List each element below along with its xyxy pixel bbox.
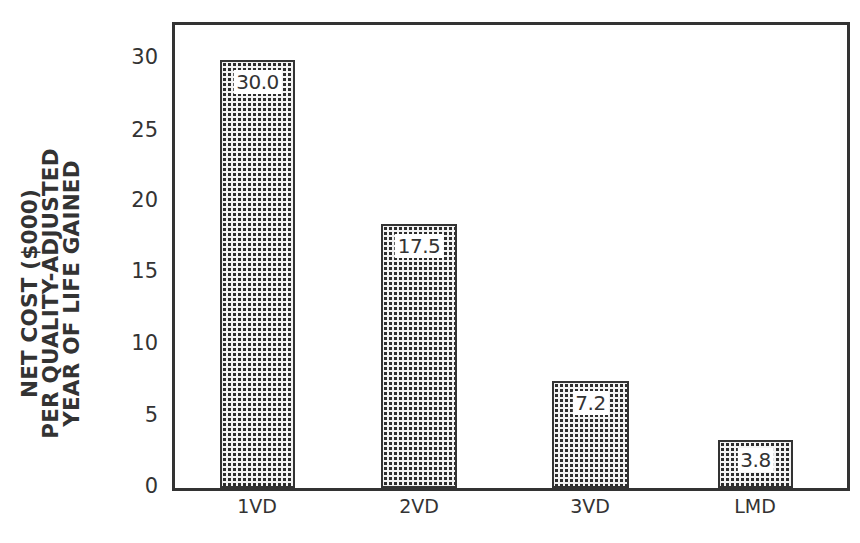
bar-value-label: 30.0 xyxy=(233,70,282,94)
x-tick-3vd: 3VD xyxy=(540,495,640,517)
bar-value-label: 17.5 xyxy=(395,234,444,258)
bar-1vd: 30.0 xyxy=(220,60,295,488)
x-tick-2vd: 2VD xyxy=(369,495,469,517)
y-tick-10: 10 xyxy=(118,332,158,354)
y-axis-title: NET COST ($000) PER QUALITY-ADJUSTED YEA… xyxy=(19,84,82,504)
y-tick-20: 20 xyxy=(118,189,158,211)
bar-3vd: 7.2 xyxy=(552,381,629,488)
y-tick-30: 30 xyxy=(118,46,158,68)
bar-2vd: 17.5 xyxy=(381,224,457,488)
y-tick-5: 5 xyxy=(118,404,158,426)
y-tick-0: 0 xyxy=(118,475,158,497)
x-tick-lmd: LMD xyxy=(705,495,805,517)
bar-lmd: 3.8 xyxy=(718,440,793,488)
y-axis-title-line-3: YEAR OF LIFE GAINED xyxy=(61,84,82,504)
y-axis-title-line-1: NET COST ($000) xyxy=(19,84,40,504)
y-tick-15: 15 xyxy=(118,260,158,282)
y-tick-25: 25 xyxy=(118,119,158,141)
y-axis-title-line-2: PER QUALITY-ADJUSTED xyxy=(40,84,61,504)
bar-value-label: 7.2 xyxy=(572,391,608,415)
x-tick-1vd: 1VD xyxy=(207,495,307,517)
bar-value-label: 3.8 xyxy=(737,448,773,472)
